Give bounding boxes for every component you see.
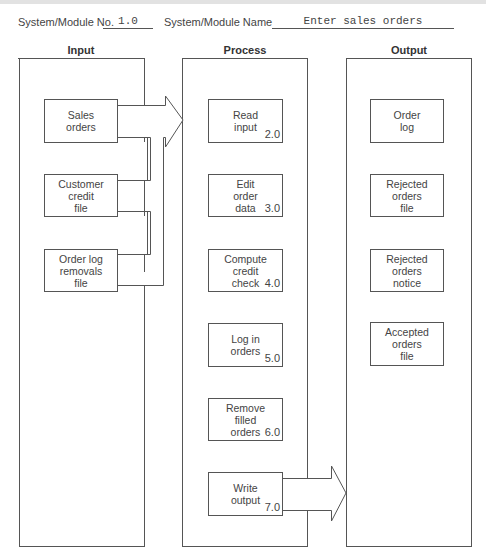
input-box-label: Sales orders: [66, 109, 96, 133]
process-box-write-output: Write output 7.0: [208, 472, 283, 516]
input-box-order-log-removals-file: Order log removals file: [44, 249, 118, 292]
process-number: 6.0: [265, 427, 280, 438]
output-box-rejected-orders-notice: Rejected orders notice: [370, 249, 444, 292]
input-box-label: Order log removals file: [59, 253, 103, 289]
input-box-customer-credit-file: Customer credit file: [44, 174, 118, 217]
process-box-log-in-orders: Log in orders 5.0: [208, 323, 283, 367]
input-box-sales-orders: Sales orders: [44, 99, 118, 143]
process-box-edit-order-data: Edit order data 3.0: [208, 174, 283, 217]
input-box-label: Customer credit file: [58, 178, 104, 214]
output-box-order-log: Order log: [370, 99, 444, 143]
process-number: 3.0: [265, 203, 280, 214]
process-box-label: Log in orders: [231, 333, 261, 357]
output-box-accepted-orders-file: Accepted orders file: [370, 322, 444, 366]
output-box-label: Accepted orders file: [385, 326, 429, 362]
process-box-remove-filled-orders: Remove filled orders 6.0: [208, 398, 283, 441]
output-box-rejected-orders-file: Rejected orders file: [370, 174, 444, 217]
process-box-compute-credit-check: Compute credit check 4.0: [208, 249, 283, 292]
process-number: 4.0: [265, 278, 280, 289]
process-box-label: Edit order data: [233, 178, 258, 214]
output-box-label: Rejected orders file: [386, 178, 427, 214]
output-box-label: Order log: [394, 109, 421, 133]
process-number: 7.0: [265, 502, 280, 513]
process-box-label: Read input: [233, 109, 258, 133]
process-number: 5.0: [265, 353, 280, 364]
process-number: 2.0: [265, 129, 280, 140]
process-box-read-input: Read input 2.0: [208, 99, 283, 143]
process-box-label: Write output: [231, 482, 260, 506]
output-box-label: Rejected orders notice: [386, 253, 427, 289]
process-box-label: Remove filled orders: [226, 402, 265, 438]
process-box-label: Compute credit check: [224, 253, 267, 289]
